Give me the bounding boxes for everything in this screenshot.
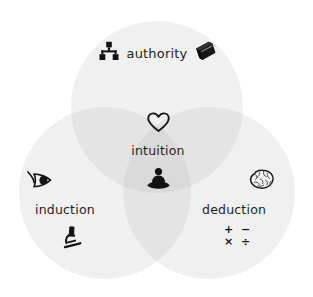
venn-label-induction: induction: [18, 204, 95, 217]
heart-icon: [147, 112, 170, 136]
meditation-icon: [145, 167, 172, 195]
venn-region-deduction: deduction + − × ÷: [196, 168, 308, 264]
org-chart-icon: [98, 41, 120, 65]
eye-icon: [18, 168, 56, 195]
venn-region-authority: authority: [88, 36, 228, 70]
venn-label-intuition: intuition: [131, 145, 184, 158]
venn-label-deduction: deduction: [196, 204, 266, 217]
microscope-icon: [18, 225, 84, 252]
venn-label-authority: authority: [126, 47, 187, 60]
math-operators-row-2: × ÷: [224, 236, 252, 249]
venn-region-induction: induction: [18, 168, 128, 262]
math-operators-icon: + − × ÷: [196, 224, 252, 249]
venn-diagram: authority intuition: [0, 0, 313, 297]
brain-icon: [196, 168, 276, 195]
venn-label-layer: authority intuition: [0, 0, 313, 297]
book-icon: [194, 40, 218, 66]
